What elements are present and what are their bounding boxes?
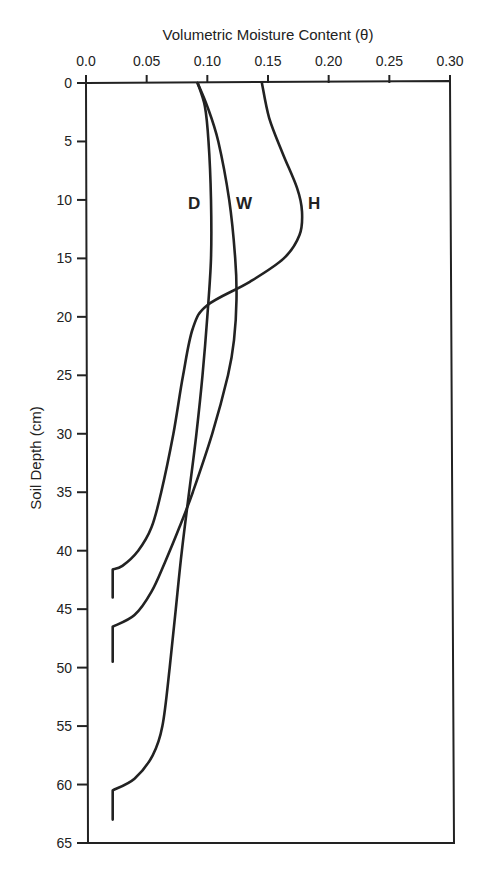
series-label-h: H xyxy=(308,194,320,213)
x-tick-label: 0.20 xyxy=(315,53,342,69)
y-tick-label: 10 xyxy=(56,192,72,208)
y-tick-label: 60 xyxy=(56,777,72,793)
y-tick-label: 65 xyxy=(56,835,72,851)
y-tick-label: 15 xyxy=(56,250,72,266)
x-tick-label: 0.15 xyxy=(254,53,281,69)
y-tick-label: 20 xyxy=(56,309,72,325)
y-tick-label: 25 xyxy=(56,367,72,383)
y-tick-label: 50 xyxy=(56,660,72,676)
y-tick-label: 55 xyxy=(56,718,72,734)
y-tick-label: 30 xyxy=(56,426,72,442)
x-tick-label: 0.30 xyxy=(436,53,463,69)
chart-canvas: Volumetric Moisture Content (θ) 0.00.050… xyxy=(0,0,485,872)
chart-title: Volumetric Moisture Content (θ) xyxy=(163,26,374,43)
series-curves xyxy=(113,83,303,820)
series-label-w: W xyxy=(236,194,253,213)
x-tick-label: 0.0 xyxy=(76,53,96,69)
y-axis-label: Soil Depth (cm) xyxy=(27,406,44,509)
x-tick-label: 0.05 xyxy=(133,53,160,69)
y-tick-label: 5 xyxy=(64,133,72,149)
series-label-d: D xyxy=(188,194,200,213)
series-line-w xyxy=(113,83,237,662)
x-axis-ticks: 0.00.050.100.150.200.250.30 xyxy=(76,53,464,83)
y-tick-label: 0 xyxy=(64,75,72,91)
plot-frame xyxy=(86,81,454,843)
y-tick-label: 45 xyxy=(56,601,72,617)
x-tick-label: 0.10 xyxy=(194,53,221,69)
series-line-h xyxy=(113,83,303,598)
y-tick-label: 35 xyxy=(56,484,72,500)
y-axis-ticks: 05101520253035404550556065 xyxy=(56,75,87,851)
x-tick-label: 0.25 xyxy=(376,53,403,69)
y-tick-label: 40 xyxy=(56,543,72,559)
